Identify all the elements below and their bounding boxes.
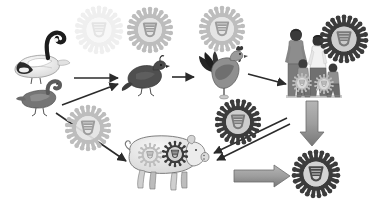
pig-icon xyxy=(125,135,209,190)
virus-particle-group xyxy=(65,6,368,199)
arrow-duck-to-quail xyxy=(62,84,118,105)
virus-particle-icon xyxy=(199,6,245,53)
virus-particle-icon xyxy=(127,7,173,54)
arrow-humans-to-human-virus xyxy=(300,101,324,146)
virus-particle-icon xyxy=(320,15,369,64)
influenza-transmission-diagram: Influenza A virus interspecies transmiss… xyxy=(0,0,381,205)
arrow-chicken-to-humans xyxy=(248,74,286,84)
virus-particle-icon xyxy=(65,105,111,152)
goose-icon xyxy=(15,33,70,84)
duck-icon xyxy=(16,81,60,116)
quail-icon xyxy=(122,56,170,96)
rooster-icon xyxy=(199,46,248,99)
arrow-pig-to-reassortant xyxy=(234,165,290,187)
virus-particle-icon xyxy=(292,150,341,199)
virus-particle-icon xyxy=(75,6,124,55)
virus-particle-icon xyxy=(215,99,261,146)
diagram-canvas xyxy=(0,0,381,205)
